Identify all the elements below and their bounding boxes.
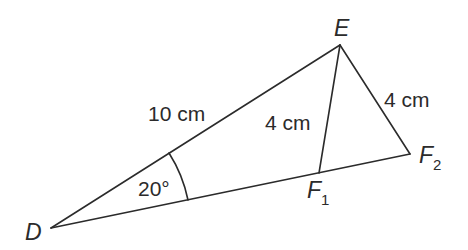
vertex-label-E: E <box>334 15 350 41</box>
edge-EF1 <box>319 45 340 173</box>
label-EF1-length: 4 cm <box>265 111 311 134</box>
vertex-label-F2: F2 <box>419 142 441 173</box>
label-angle-D: 20° <box>138 177 170 200</box>
edge-DE <box>51 45 340 228</box>
vertex-label-D: D <box>25 219 42 245</box>
label-EF2-length: 4 cm <box>384 88 430 111</box>
triangle-diagram: 10 cm 4 cm 4 cm 20° D E F1 F2 <box>0 0 468 250</box>
edge-DF2 <box>51 154 410 228</box>
vertex-label-F1: F1 <box>307 177 329 208</box>
angle-arc-D <box>169 153 188 200</box>
label-DE-length: 10 cm <box>148 102 205 125</box>
